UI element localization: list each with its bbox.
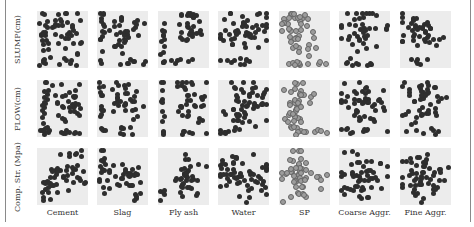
data-point [300, 80, 306, 86]
scatter-panel [97, 148, 148, 205]
data-point [53, 93, 58, 98]
data-point [291, 173, 297, 179]
data-point [136, 33, 141, 38]
data-point [366, 195, 371, 200]
data-point [60, 104, 65, 109]
data-point [296, 49, 302, 55]
data-point [46, 190, 51, 195]
data-point [378, 161, 383, 166]
data-point [414, 163, 419, 168]
data-point [426, 108, 431, 113]
data-point [259, 188, 264, 193]
data-point [224, 183, 229, 188]
data-point [279, 21, 285, 27]
data-point [221, 109, 226, 114]
data-point [123, 86, 128, 91]
data-point [419, 200, 424, 205]
data-point [120, 162, 125, 167]
data-point [288, 166, 294, 172]
row-label: Comp. Str. (Mpa) [13, 142, 22, 212]
data-point [442, 178, 447, 183]
data-point [60, 94, 65, 99]
data-point [70, 23, 75, 28]
scatter-panel [97, 11, 148, 68]
data-point [138, 191, 143, 196]
data-point [419, 176, 424, 181]
data-point [251, 152, 256, 157]
data-point [428, 26, 433, 31]
data-point [306, 53, 312, 59]
data-point [355, 152, 360, 157]
data-point [116, 83, 121, 88]
data-point [425, 57, 430, 62]
data-point [192, 92, 197, 97]
data-point [400, 113, 405, 118]
data-point [318, 128, 324, 134]
data-point [220, 161, 225, 166]
data-point [161, 60, 166, 65]
data-point [117, 23, 122, 28]
data-point [235, 181, 240, 186]
data-point [65, 20, 70, 25]
data-point [196, 162, 201, 167]
data-point [232, 58, 237, 63]
scatter-panel [218, 11, 269, 68]
scatter-panel [279, 80, 330, 137]
data-point [40, 103, 45, 108]
data-point [240, 120, 245, 125]
data-point [126, 173, 131, 178]
data-point [181, 181, 186, 186]
data-point [436, 99, 441, 104]
data-point [351, 174, 356, 179]
data-point [324, 130, 330, 136]
data-point [244, 200, 249, 205]
scatter-panel [37, 80, 88, 137]
data-point [354, 91, 359, 96]
data-point [228, 11, 233, 16]
scatter-panel [339, 80, 390, 137]
data-point [311, 91, 317, 97]
data-point [264, 38, 269, 43]
data-point [353, 23, 358, 28]
data-point [441, 35, 446, 40]
data-point [188, 98, 193, 103]
scatter-panel [279, 11, 330, 68]
data-point [50, 169, 55, 174]
data-point [255, 12, 260, 17]
data-point [160, 100, 165, 105]
data-point [240, 161, 245, 166]
data-point [262, 29, 267, 34]
data-point [290, 148, 296, 154]
data-point [231, 161, 236, 166]
data-point [119, 44, 124, 49]
data-point [361, 41, 366, 46]
data-point [232, 85, 237, 90]
data-point [222, 17, 227, 22]
data-point [184, 171, 189, 176]
data-point [260, 95, 265, 100]
data-point [193, 104, 198, 109]
data-point [79, 148, 84, 153]
data-point [199, 104, 204, 109]
data-point [339, 91, 344, 96]
data-point [53, 18, 58, 23]
data-point [357, 16, 362, 21]
data-point [78, 18, 83, 23]
data-point [438, 170, 443, 175]
data-point [71, 41, 76, 46]
data-point [105, 178, 110, 183]
data-point [142, 21, 147, 26]
data-point [298, 27, 304, 33]
data-point [200, 97, 205, 102]
data-point [113, 174, 118, 179]
data-point [356, 62, 361, 67]
data-point [342, 192, 347, 197]
data-point [347, 34, 352, 39]
data-point [349, 162, 354, 167]
data-point [190, 131, 195, 136]
data-point [410, 28, 415, 33]
data-point [293, 132, 299, 137]
data-point [298, 156, 304, 162]
data-point [301, 129, 307, 135]
data-point [431, 128, 436, 133]
